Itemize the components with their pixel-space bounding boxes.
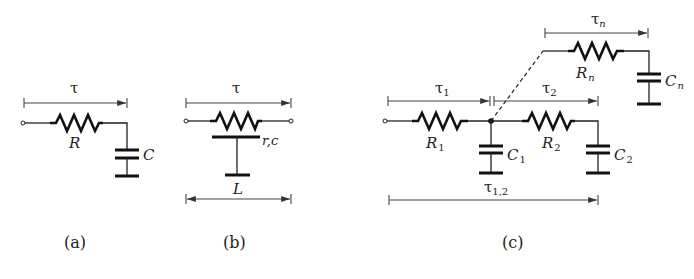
wire [103,123,127,150]
resistor-r1 [412,113,468,129]
resistor-r [50,115,103,131]
r2-label: R2 [541,134,561,153]
distributed-resistor [210,113,262,129]
capacitor-c [115,150,139,176]
capacitor-cn [637,74,661,104]
taun-dimension-arrow [545,28,648,38]
panel-caption-b: (b) [223,233,246,252]
dashed-branch-line [491,51,543,121]
resistor-rn [568,43,624,59]
resistor-label: R [68,134,80,152]
rc-circuit-figure: τ R C (a) τ [0,0,694,279]
tau12-label: τ1,2 [484,178,508,197]
panel-caption-a: (a) [64,233,86,252]
input-terminal [184,119,188,123]
r1-label: R1 [425,134,445,153]
tau1-label: τ1 [435,79,450,98]
distributed-rc-label: r,c [262,133,279,148]
panel-c-rc-tree: τ1 τ2 τn [383,10,684,252]
tau-label: τ [70,79,78,97]
taun-label: τn [591,10,606,29]
tau-label: τ [232,79,240,97]
capacitor-label: C [143,146,155,164]
c2-label: C2 [614,146,633,165]
tau2-label: τ2 [542,79,557,98]
tau-dimension-arrow [24,98,127,108]
panel-a-lumped-rc: τ R C (a) [21,79,155,252]
rn-label: Rn [575,64,595,83]
wire [624,51,649,74]
c1-label: C1 [507,146,526,165]
panel-b-distributed-rc: τ r,c L (b) [184,79,293,252]
length-label: L [232,180,243,198]
tau-dimension-arrow [186,98,291,108]
input-terminal [383,119,387,123]
capacitor-c2 [586,146,610,173]
output-terminal [289,119,293,123]
wire [575,121,598,146]
distributed-capacitor [212,137,260,175]
panel-caption-c: (c) [502,233,523,252]
cn-label: Cn [665,72,684,91]
tau2-dimension-arrow [494,96,598,106]
input-terminal [21,121,25,125]
resistor-r2 [522,113,575,129]
capacitor-c1 [479,121,503,173]
tau1-dimension-arrow [388,96,490,106]
